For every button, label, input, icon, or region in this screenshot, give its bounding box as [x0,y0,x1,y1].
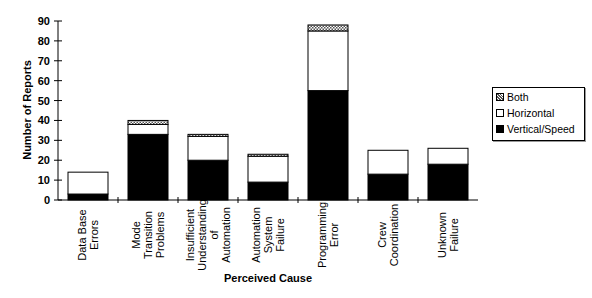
x-tick-label: Crew [376,222,388,248]
bar-segment [248,182,288,200]
x-tick-label: Automation [220,207,232,263]
x-tick-label: Data Base [76,209,88,260]
bar-segment [248,154,288,156]
bar-stack [188,134,228,200]
bar-segment [248,156,288,182]
bar-segment [308,25,348,31]
x-tick-label: Insufficient [184,209,196,261]
bar-segment [308,91,348,200]
bar-stack [308,25,348,200]
x-tick-label: Errors [88,220,100,250]
y-tick-label: 60 [38,75,50,87]
legend-item-horizontal: Horizontal [496,105,584,120]
bar-segment [188,134,228,136]
x-tick-label: Mode [130,221,142,249]
bar-segment [188,160,228,200]
x-tick-labels: Data BaseErrorsModeTransitionProblemsIns… [76,199,460,271]
x-tick-label: Failure [274,218,286,252]
y-axis-title: Number of Reports [21,60,33,160]
legend-label: Horizontal [507,107,554,119]
bar-segment [428,148,468,164]
x-tick-label: Error [328,222,340,247]
hatch-swatch-icon [496,93,504,101]
bar-stack [368,150,408,200]
y-tick-label: 50 [38,95,50,107]
white-swatch-icon [496,109,504,117]
legend-item-vertical-speed: Vertical/Speed [496,121,584,136]
x-tick-label: System [262,217,274,254]
y-tick-label: 30 [38,134,50,146]
bar-stack [248,154,288,200]
x-tick-label: Failure [448,218,460,252]
black-swatch-icon [496,125,504,133]
bar-segment [128,134,168,200]
y-axis: 0102030405060708090 [38,15,62,206]
x-tick-label: Coordination [388,204,400,266]
y-tick-label: 80 [38,35,50,47]
y-tick-label: 20 [38,154,50,166]
legend: Both Horizontal Vertical/Speed [492,87,585,141]
bar-segment [128,124,168,134]
bar-stack [428,148,468,200]
legend-label: Both [507,91,529,103]
bar-segment [368,150,408,174]
y-tick-label: 10 [38,174,50,186]
legend-item-both: Both [496,89,584,104]
legend-label: Vertical/Speed [507,123,575,135]
bars [68,25,468,200]
y-tick-label: 0 [44,194,50,206]
y-tick-label: 70 [38,55,50,67]
bar-segment [428,164,468,200]
x-tick-label: of [208,229,220,239]
bar-stack [68,172,108,200]
x-tick-label: Understanding [196,199,208,271]
bar-segment [68,194,108,200]
y-tick-label: 90 [38,15,50,27]
x-tick-label: Transition [142,211,154,259]
bar-segment [128,120,168,124]
x-axis-title: Perceived Cause [224,272,312,284]
bar-segment [68,172,108,194]
stacked-bar-chart: 0102030405060708090 Data BaseErrorsModeT… [0,0,592,298]
x-tick-label: Automation [250,207,262,263]
bar-segment [308,31,348,91]
x-tick-label: Problems [154,211,166,258]
bar-segment [188,136,228,160]
y-tick-label: 40 [38,114,50,126]
bar-segment [368,174,408,200]
x-tick-label: Programming [316,202,328,268]
bar-stack [128,120,168,200]
x-tick-label: Unknown [436,212,448,258]
